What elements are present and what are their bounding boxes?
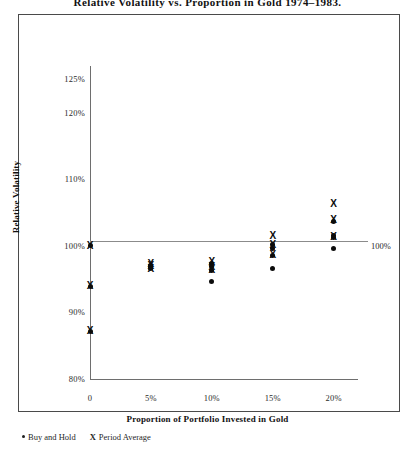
y-axis-label: Relative Volatility bbox=[11, 142, 21, 252]
x-tick-label: 10% bbox=[204, 393, 220, 403]
y-axis-line bbox=[90, 66, 91, 380]
y-tick-label: 120% bbox=[43, 108, 85, 118]
legend-item-label: Buy and Hold bbox=[28, 432, 76, 442]
x-tick-label: 15% bbox=[265, 393, 281, 403]
y-tick-label: 100% bbox=[43, 241, 85, 251]
y-tick-label: 80% bbox=[43, 374, 85, 384]
x-tick-label: 5% bbox=[145, 393, 157, 403]
y-axis-ticks: 125%120%110%100%90%80% bbox=[40, 0, 85, 456]
legend-item-label: Period Average bbox=[99, 432, 151, 442]
y-tick-label: 90% bbox=[43, 307, 85, 317]
y-tick-label: 125% bbox=[43, 74, 85, 84]
legend-x-icon: X bbox=[90, 432, 96, 442]
x-tick-label: 20% bbox=[326, 393, 342, 403]
y-tick-label: 110% bbox=[43, 174, 85, 184]
annotation-100-percent: 100% bbox=[371, 241, 391, 251]
legend-item: XPeriod Average bbox=[90, 432, 151, 442]
chart-legend: Buy and HoldXPeriod Average bbox=[22, 432, 165, 442]
legend-dot-icon bbox=[22, 435, 25, 438]
legend-item: Buy and Hold bbox=[22, 432, 76, 442]
reference-line-100-percent bbox=[90, 241, 368, 242]
x-tick-label: 0 bbox=[88, 393, 92, 403]
x-axis-line bbox=[90, 379, 358, 380]
